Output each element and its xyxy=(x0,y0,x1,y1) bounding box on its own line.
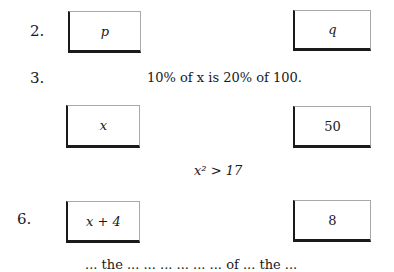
column-b-value: 50 xyxy=(324,119,341,134)
column-b-value: q xyxy=(328,22,336,37)
column-a-value: x + 4 xyxy=(86,214,121,229)
question-statement-3: 10% of x is 20% of 100. xyxy=(147,70,302,85)
cutoff-text-line: ... the ... ... ... ... ... ... of ... t… xyxy=(85,257,297,272)
question-number-2: 2. xyxy=(30,22,44,40)
question-statement-condition: x² > 17 xyxy=(194,163,242,178)
statement-text: x² > 17 xyxy=(194,163,242,178)
column-a-value: p xyxy=(101,24,109,39)
column-b-box-q2: q xyxy=(293,10,371,51)
column-a-value: x xyxy=(100,118,107,133)
statement-text: 10% of x is 20% of 100. xyxy=(147,70,302,85)
column-a-box-q3: x xyxy=(66,105,140,148)
column-a-box-q6: x + 4 xyxy=(66,201,140,243)
column-b-value: 8 xyxy=(328,213,336,228)
column-a-box-q2: p xyxy=(68,11,141,53)
question-number-6: 6. xyxy=(17,210,31,228)
column-b-box-q3: 50 xyxy=(293,106,371,148)
column-b-box-q6: 8 xyxy=(293,200,371,242)
question-number-3: 3. xyxy=(30,69,44,87)
